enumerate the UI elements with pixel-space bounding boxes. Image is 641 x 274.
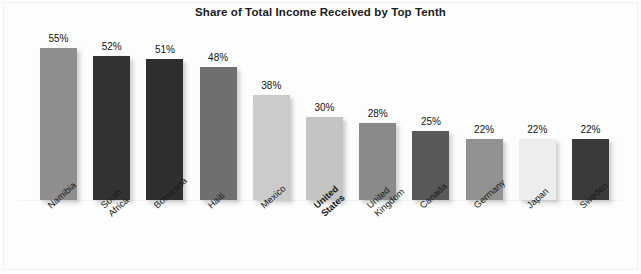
bar-group: 52%South Africa (93, 0, 130, 274)
bar[interactable] (253, 95, 290, 200)
bar-group: 30%United States (306, 0, 343, 274)
bar-group: 55%Namibia (40, 0, 77, 274)
bar-value-label: 22% (474, 124, 494, 135)
bar-value-label: 25% (421, 116, 441, 127)
bar-value-label: 52% (102, 41, 122, 52)
bar-value-label: 38% (261, 80, 281, 91)
bar-group: 25%Canada (412, 0, 449, 274)
bar-group: 51%Botswana (146, 0, 183, 274)
bar-value-label: 22% (580, 124, 600, 135)
bar-chart-figure: Share of Total Income Received by Top Te… (0, 0, 641, 274)
bar-group: 48%Haiti (200, 0, 237, 274)
bar[interactable] (200, 67, 237, 200)
bar-group: 22%Sweden (572, 0, 609, 274)
bar-group: 38%Mexico (253, 0, 290, 274)
bar-group: 22%Germany (466, 0, 503, 274)
bar[interactable] (40, 48, 77, 200)
bar-value-label: 55% (48, 33, 68, 44)
bar-group: 22%Japan (519, 0, 556, 274)
bar-value-label: 30% (314, 102, 334, 113)
bar-value-label: 28% (368, 108, 388, 119)
bar-group: 28%United Kingdom (359, 0, 396, 274)
bar-value-label: 48% (208, 52, 228, 63)
bar-value-label: 51% (155, 44, 175, 55)
bar[interactable] (93, 56, 130, 200)
plot-area: 55%Namibia52%South Africa51%Botswana48%H… (0, 0, 641, 274)
bar-value-label: 22% (527, 124, 547, 135)
